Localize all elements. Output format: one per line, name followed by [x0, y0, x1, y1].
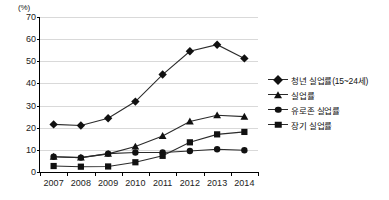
legend-symbol — [274, 91, 282, 98]
y-axis-unit-label: (%) — [18, 3, 30, 12]
chart-legend: 청년 실업률(15~24세)실업률유로존 실업률장기 실업률 — [268, 72, 389, 132]
data-point-circle — [187, 148, 193, 154]
legend-symbol — [273, 75, 283, 85]
legend-item-1[interactable]: 청년 실업률(15~24세) — [268, 72, 389, 87]
x-tick-label: 2013 — [207, 178, 227, 188]
legend-symbol — [275, 106, 282, 113]
data-point-triangle — [131, 143, 139, 150]
plot-area: 010203040506070 200720082009201020112012… — [40, 17, 258, 172]
legend-item-2[interactable]: 실업률 — [268, 87, 389, 102]
legend-circle-icon — [268, 102, 288, 117]
x-tick-label: 2014 — [234, 178, 254, 188]
legend-label: 유로존 실업률 — [288, 104, 340, 116]
legend-diamond-icon — [268, 72, 288, 87]
x-tick-mark — [231, 172, 232, 176]
y-tick-label: 30 — [26, 101, 36, 111]
y-tick-label: 60 — [26, 34, 36, 44]
series-layer — [40, 17, 258, 172]
data-point-triangle — [159, 132, 167, 139]
y-tick-label: 0 — [31, 167, 36, 177]
y-tick-label: 50 — [26, 56, 36, 66]
data-point-circle — [50, 154, 56, 160]
data-point-square — [160, 153, 166, 159]
legend-item-3[interactable]: 유로존 실업률 — [268, 102, 389, 117]
x-tick-mark — [122, 172, 123, 176]
data-point-diamond — [213, 40, 221, 48]
x-tick-mark — [95, 172, 96, 176]
x-tick-label: 2008 — [71, 178, 91, 188]
data-point-square — [132, 159, 138, 165]
data-point-square — [241, 129, 247, 135]
x-tick-mark — [149, 172, 150, 176]
data-point-square — [78, 164, 84, 170]
data-point-circle — [105, 150, 111, 156]
data-point-square — [214, 131, 220, 137]
data-point-diamond — [77, 121, 85, 129]
x-tick-label: 2012 — [180, 178, 200, 188]
x-tick-mark — [204, 172, 205, 176]
x-tick-label: 2009 — [98, 178, 118, 188]
data-point-diamond — [240, 54, 248, 62]
data-point-square — [51, 163, 57, 169]
x-tick-label: 2011 — [153, 178, 172, 188]
x-tick-mark — [176, 172, 177, 176]
legend-label: 장기 실업률 — [288, 119, 332, 131]
data-point-circle — [241, 147, 247, 153]
legend-label: 청년 실업률(15~24세) — [288, 74, 368, 86]
x-tick-mark — [258, 172, 259, 176]
legend-item-4[interactable]: 장기 실업률 — [268, 117, 389, 132]
data-point-square — [105, 163, 111, 169]
x-tick-mark — [67, 172, 68, 176]
data-point-diamond — [49, 120, 57, 128]
series-path — [54, 45, 245, 126]
x-tick-label: 2010 — [125, 178, 145, 188]
x-tick-mark — [40, 172, 41, 176]
data-point-square — [187, 139, 193, 145]
y-tick-label: 20 — [26, 123, 36, 133]
y-tick-label: 10 — [26, 145, 36, 155]
data-point-circle — [78, 154, 84, 160]
legend-symbol — [275, 121, 282, 128]
y-tick-label: 70 — [26, 12, 36, 22]
data-point-circle — [132, 149, 138, 155]
data-point-triangle — [213, 111, 221, 118]
legend-triangle-icon — [268, 87, 288, 102]
x-tick-label: 2007 — [44, 178, 64, 188]
legend-square-icon — [268, 117, 288, 132]
data-point-circle — [214, 146, 220, 152]
data-point-diamond — [104, 114, 112, 122]
chart-figure: (%) 010203040506070 20072008200920102011… — [0, 0, 389, 200]
y-tick-label: 40 — [26, 78, 36, 88]
legend-label: 실업률 — [288, 89, 314, 101]
